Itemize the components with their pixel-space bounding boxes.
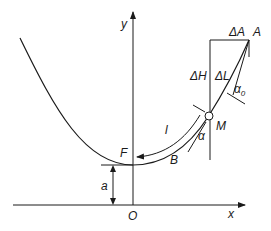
point-F-label: F	[120, 146, 128, 160]
height-a-arrowhead-top	[110, 165, 116, 172]
delta-H-label: ΔH	[189, 69, 207, 83]
origin-label: O	[128, 209, 137, 223]
arc-length-label: l	[165, 123, 168, 137]
delta-L-label: ΔL	[214, 69, 230, 83]
arc-tick	[193, 105, 205, 112]
catenary-diagram: y x O F B M A ΔA ΔH ΔL α0 α l a	[0, 0, 271, 231]
height-a-label: a	[101, 179, 108, 193]
point-M	[205, 112, 213, 120]
alpha-label: α	[198, 129, 206, 143]
arc-length-arrow	[137, 115, 200, 157]
x-axis-label: x	[227, 207, 235, 221]
height-a-arrowhead-bottom	[110, 198, 116, 205]
alpha0-label: α0	[234, 82, 246, 98]
y-axis-label: y	[120, 17, 128, 31]
point-A-label: A	[252, 25, 261, 39]
point-M-label: M	[216, 119, 226, 133]
catenary-curve	[20, 38, 249, 165]
point-B-label: B	[170, 153, 178, 167]
delta-A-label: ΔA	[228, 25, 245, 39]
